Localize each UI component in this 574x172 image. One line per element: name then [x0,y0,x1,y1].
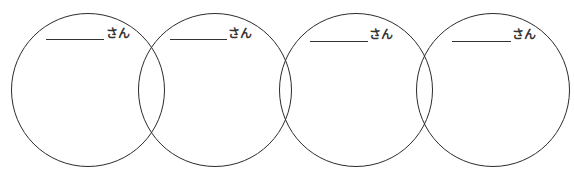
name-blank-line-2[interactable] [170,39,227,40]
name-blank-line-4[interactable] [452,41,511,42]
name-blank-line-1[interactable] [46,39,104,40]
honorific-label-2: さん [228,28,252,40]
honorific-label-4: さん [512,29,536,41]
venn-worksheet: さん さん さん さん [0,0,574,172]
honorific-label-3: さん [369,29,393,41]
honorific-label-1: さん [106,28,130,40]
name-blank-line-3[interactable] [310,41,368,42]
circle-3 [279,13,433,167]
circle-4 [416,13,570,167]
circle-2 [138,13,292,167]
